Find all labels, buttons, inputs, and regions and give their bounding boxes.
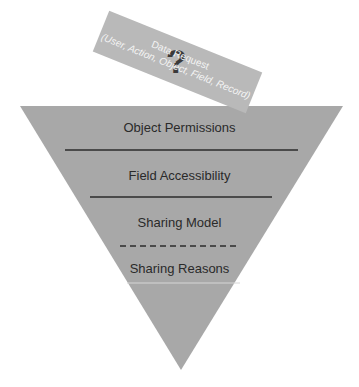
funnel-diagram: Object Permissions Field Accessibility S…: [0, 0, 359, 387]
funnel-triangle: [20, 106, 343, 370]
layer-sharing-reasons: Sharing Reasons: [0, 261, 359, 277]
layer-field-accessibility: Field Accessibility: [0, 168, 359, 184]
layer-sharing-model: Sharing Model: [0, 215, 359, 231]
layer-object-permissions: Object Permissions: [0, 120, 359, 136]
